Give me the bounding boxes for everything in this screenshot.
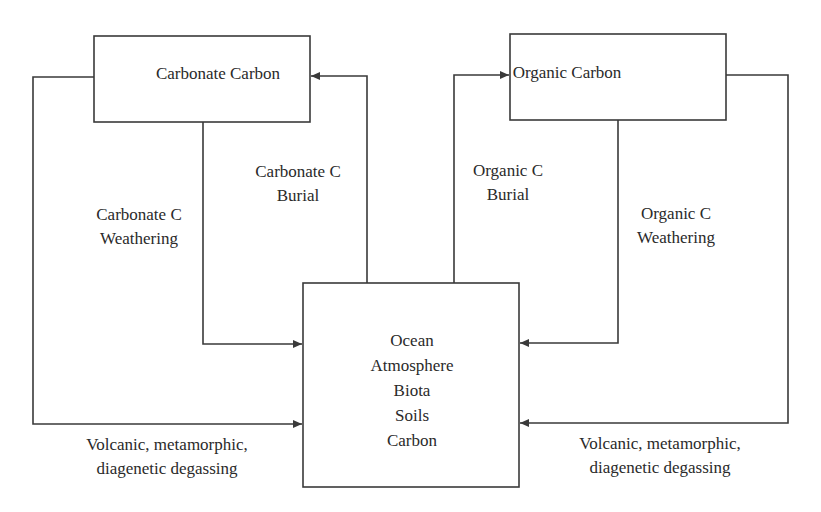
flux-label-line: Organic C (473, 161, 543, 180)
organic-weathering-label: Organic C Weathering (637, 204, 715, 247)
flux-label-line: Carbonate C (96, 205, 181, 224)
flux-label-line: Volcanic, metamorphic, (579, 434, 741, 453)
ocean-label-line: Biota (394, 381, 431, 400)
carbon-cycle-diagram: Carbonate Carbon Organic Carbon Ocean At… (0, 0, 821, 512)
flux-label-line: Carbonate C (255, 162, 340, 181)
flux-label-line: Weathering (100, 229, 178, 248)
organic-carbon-label: Organic Carbon (513, 63, 622, 82)
carbonate-degassing-arrow (33, 77, 302, 424)
flux-label-line: Volcanic, metamorphic, (86, 435, 248, 454)
ocean-label-line: Atmosphere (370, 356, 453, 375)
organic-weathering-arrow (520, 120, 618, 343)
carbonate-burial-label: Carbonate C Burial (255, 162, 340, 205)
organic-burial-label: Organic C Burial (473, 161, 543, 204)
flux-label-line: Burial (487, 185, 530, 204)
carbonate-weathering-label: Carbonate C Weathering (96, 205, 181, 248)
ocean-label-line: Carbon (387, 431, 438, 450)
flux-label-line: Burial (277, 186, 320, 205)
ocean-label-line: Soils (395, 406, 429, 425)
organic-degassing-arrow (520, 75, 788, 423)
carbonate-weathering-arrow (203, 122, 302, 344)
carbonate-degassing-label: Volcanic, metamorphic, diagenetic degass… (86, 435, 248, 478)
flux-label-line: Weathering (637, 228, 715, 247)
flux-label-line: diagenetic degassing (589, 458, 731, 477)
ocean-label-line: Ocean (390, 331, 434, 350)
flux-label-line: Organic C (641, 204, 711, 223)
flux-label-line: diagenetic degassing (96, 459, 238, 478)
organic-degassing-label: Volcanic, metamorphic, diagenetic degass… (579, 434, 741, 477)
carbonate-carbon-label: Carbonate Carbon (156, 64, 281, 83)
